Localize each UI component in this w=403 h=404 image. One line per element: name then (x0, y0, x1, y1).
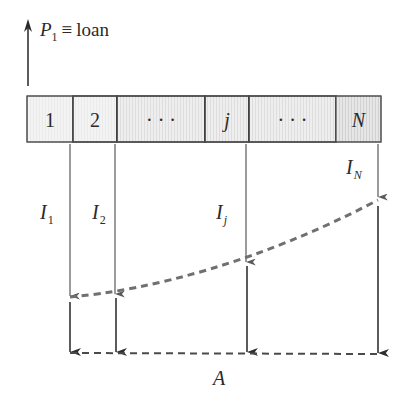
annuity-baseline (70, 353, 378, 354)
period-label: · · · (278, 109, 308, 131)
period-cell: j (205, 96, 249, 142)
loan-arrow (24, 19, 32, 86)
principal-arrows (70, 206, 378, 353)
period-cell: · · · (117, 96, 205, 142)
period-label: 2 (90, 109, 100, 131)
period-timeline: 12· · ·j· · ·N (27, 96, 381, 142)
interest-label: Ij (215, 201, 228, 227)
interest-labels: I1I2IjIN (39, 156, 363, 227)
interest-label: I1 (39, 201, 54, 227)
period-label: N (351, 109, 367, 131)
period-cell: · · · (249, 96, 336, 142)
period-cell: N (336, 96, 381, 142)
annuity-label: A (211, 367, 226, 389)
loan-label: P1≡loan (39, 19, 110, 44)
loan-annuity-diagram: P1≡loan 12· · ·j· · ·N I1I2IjIN A (0, 0, 403, 404)
period-cell: 1 (27, 96, 73, 142)
interest-label: IN (345, 156, 363, 182)
period-label: · · · (146, 109, 176, 131)
period-label: 1 (45, 109, 55, 131)
interest-label: I2 (91, 201, 106, 227)
period-cell: 2 (73, 96, 117, 142)
